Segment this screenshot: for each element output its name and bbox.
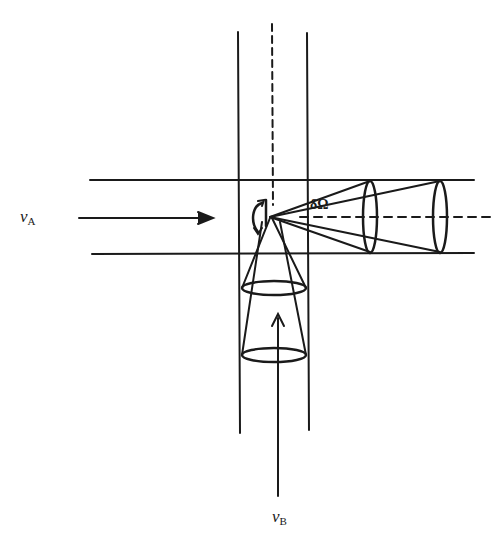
beam-a-subscript: A [28,215,36,227]
beam-b-subscript: B [280,515,287,527]
beam-a-symbol: v [20,207,28,226]
solid-angle-label: δΩ [310,198,328,212]
horizontal-tube-bottom-wall [92,253,474,254]
vertical-axis-dashed [272,24,273,205]
vertical-tube-left-wall [238,32,240,433]
beam-b-symbol: v [272,507,280,526]
beam-b-label: vB [272,508,287,527]
beam-a-label: vA [20,208,36,227]
beam-b-aperture-lower [242,348,306,362]
beam-a-arrowhead [198,212,213,224]
scattering-diagram [0,0,501,541]
